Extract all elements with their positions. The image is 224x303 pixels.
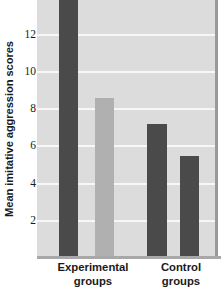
group-label-control: Controlgroups xyxy=(141,261,221,288)
group-label-line1: Control xyxy=(161,261,201,273)
y-tick-label-2: 2 xyxy=(16,214,36,225)
group-label-experimental: Experimentalgroups xyxy=(37,261,149,288)
experimental-bar-1 xyxy=(59,0,78,258)
plot-area xyxy=(37,0,218,258)
y-tick-label-6: 6 xyxy=(16,140,36,151)
group-label-line1: Experimental xyxy=(58,261,129,273)
experimental-bar-2 xyxy=(95,98,114,258)
group-label-line2: groups xyxy=(37,275,149,289)
y-tick-label-8: 8 xyxy=(16,103,36,114)
x-axis-group-labels: ExperimentalgroupsControlgroups xyxy=(37,261,221,303)
y-tick-label-4: 4 xyxy=(16,177,36,188)
bar-chart-figure: Mean imitative aggression scores 2468101… xyxy=(0,0,224,303)
y-tick-label-12: 12 xyxy=(16,28,36,39)
y-axis-title: Mean imitative aggression scores xyxy=(3,41,15,217)
y-axis-tick-labels: 24681012 xyxy=(16,0,36,303)
y-tick-label-10: 10 xyxy=(16,66,36,77)
x-axis-line xyxy=(37,256,221,259)
group-label-line2: groups xyxy=(141,275,221,289)
control-bar-1 xyxy=(147,124,167,258)
control-bar-2 xyxy=(180,156,199,258)
